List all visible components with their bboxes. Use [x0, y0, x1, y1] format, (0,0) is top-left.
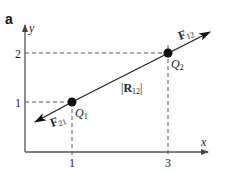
f21-label: F21	[48, 111, 68, 130]
charge-q2-label: Q2	[171, 57, 184, 72]
panel-label: a	[5, 11, 13, 27]
x-tick-1: 1	[69, 156, 75, 170]
coulomb-diagram: a y x 2 1 1 3 Q1 Q2 F12 F21 |R12|	[0, 0, 227, 173]
r12-label: |R12|	[121, 81, 142, 96]
y-axis-label: y	[28, 21, 35, 35]
x-axis-label: x	[200, 135, 207, 149]
y-tick-2: 2	[15, 47, 21, 61]
charge-q1-label: Q1	[75, 106, 88, 121]
y-tick-1: 1	[15, 96, 21, 110]
x-tick-3: 3	[165, 156, 171, 170]
